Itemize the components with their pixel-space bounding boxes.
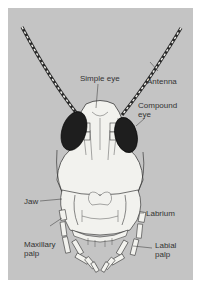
- labial-palps: [72, 239, 128, 272]
- antenna-left: [22, 27, 78, 115]
- label-antenna: Antenna: [147, 77, 177, 86]
- label-maxillary-palp-line1: Maxillary: [24, 240, 56, 249]
- label-simple-eye: Simple eye: [80, 74, 120, 83]
- label-jaw: Jaw: [24, 197, 38, 206]
- label-labial-palp-line1: Labial: [155, 241, 176, 250]
- label-labial-palp-line2: palp: [155, 250, 170, 259]
- label-compound-eye-line2: eye: [138, 110, 151, 119]
- label-compound-eye-line1: Compound: [138, 101, 177, 110]
- label-maxillary-palp-line2: palp: [24, 249, 39, 258]
- label-labrium: Labrium: [146, 209, 175, 218]
